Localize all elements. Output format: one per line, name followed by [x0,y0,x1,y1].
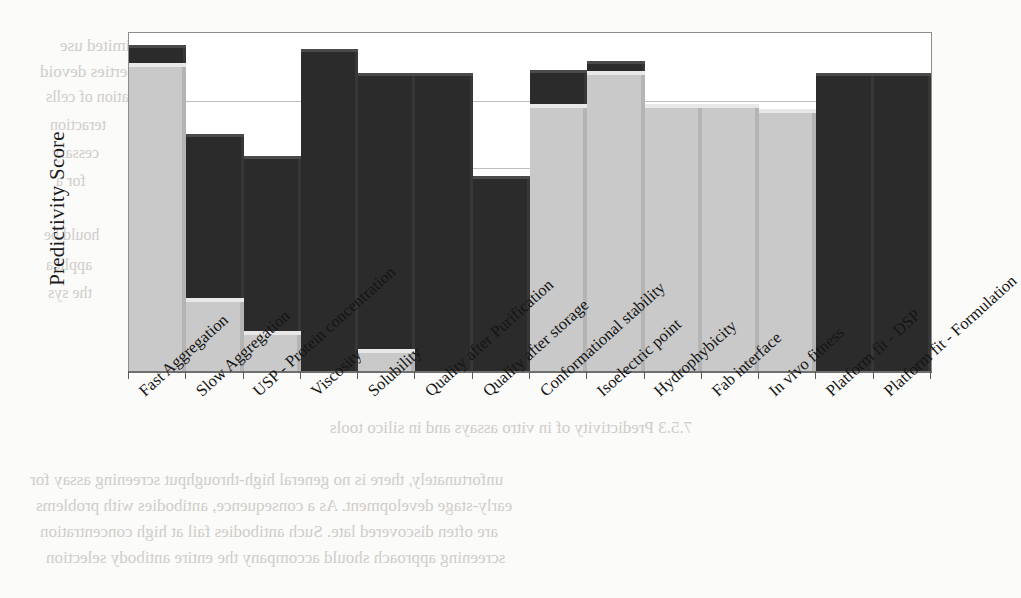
x-axis-tick [644,371,645,379]
x-axis-tick [243,371,244,379]
bar-segment-dark [129,45,186,63]
bar-segment-dark [244,156,301,331]
x-axis-tick [300,371,301,379]
x-axis-tick [472,371,473,379]
bar-segment-dark [816,73,873,371]
bar-fast-aggregation[interactable] [129,33,186,371]
bar-segment-dark [186,134,243,298]
x-axis-tick [758,371,759,379]
bar-in-vivo-fitness[interactable] [759,33,816,371]
y-axis-label: Predictivity Score [44,58,70,358]
x-axis-tick [586,371,587,379]
bar-segment-dark [587,61,644,71]
x-axis-tick [128,371,129,379]
y-axis-label-text: Predictivity Score [45,131,70,286]
bar-segment-light [129,63,186,371]
x-axis-tick [930,371,931,379]
x-axis-tick [873,371,874,379]
x-axis-tick [185,371,186,379]
bar-quality-after-purification[interactable] [415,33,472,371]
x-axis-tick [529,371,530,379]
bar-platform-fit-dsp[interactable] [816,33,873,371]
bar-segment-dark [530,70,587,104]
bar-group [129,33,931,371]
x-axis-tick [815,371,816,379]
x-axis-tick [357,371,358,379]
bar-segment-dark [358,73,415,349]
x-axis-category-labels: Fast AggregationSlow AggregationUSP - Pr… [0,380,983,580]
x-axis-tick [701,371,702,379]
bar-segment-dark [415,73,472,371]
plot-area [128,32,932,371]
bar-solubility[interactable] [358,33,415,371]
x-axis-tick [414,371,415,379]
